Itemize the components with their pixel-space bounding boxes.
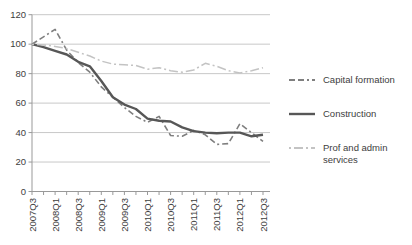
y-tick-label: 0	[21, 186, 26, 197]
y-tick-label: 100	[10, 38, 26, 49]
series-line-construction	[32, 44, 263, 136]
y-tick-label: 120	[10, 9, 26, 20]
x-tick-label: 2011Q3	[211, 198, 222, 231]
x-tick-label: 2011Q1	[188, 198, 199, 231]
legend-item-construction: Construction	[289, 108, 409, 120]
dashed-line-swatch-icon	[289, 74, 315, 86]
series-line-capital-formation	[32, 29, 263, 144]
dash-dot-line-swatch-icon	[289, 142, 315, 154]
legend-item-capital-formation: Capital formation	[289, 74, 409, 86]
chart-container: 0204060801001202007Q32008Q12008Q32009Q12…	[0, 0, 412, 245]
series-line-prof-and-admin-services	[32, 44, 263, 73]
y-tick-label: 40	[15, 127, 26, 138]
x-tick-label: 2008Q1	[50, 198, 61, 232]
y-tick-label: 60	[15, 97, 26, 108]
legend: Capital formation Construction Prof and …	[289, 74, 409, 188]
x-tick-label: 2012Q1	[234, 198, 245, 232]
x-tick-label: 2010Q3	[165, 198, 176, 232]
legend-label: Capital formation	[323, 74, 395, 86]
legend-label: Prof and admin services	[323, 142, 407, 166]
x-tick-label: 2012Q3	[258, 198, 269, 232]
legend-item-prof-and-admin-services: Prof and admin services	[289, 142, 409, 166]
x-tick-label: 2009Q1	[96, 198, 107, 232]
x-tick-label: 2007Q3	[27, 198, 38, 232]
y-tick-label: 80	[15, 68, 26, 79]
x-tick-label: 2009Q3	[119, 198, 130, 232]
x-tick-label: 2010Q1	[142, 198, 153, 232]
legend-label: Construction	[323, 108, 376, 120]
x-tick-label: 2008Q3	[73, 198, 84, 232]
solid-line-swatch-icon	[289, 108, 315, 120]
y-tick-label: 20	[15, 156, 26, 167]
